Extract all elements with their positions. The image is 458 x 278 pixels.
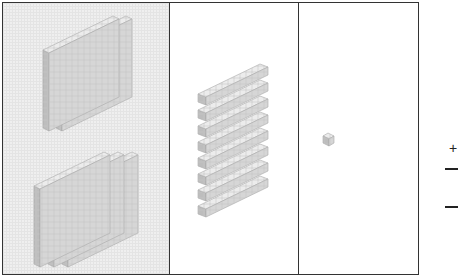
hundreds-flats-group-2 bbox=[34, 152, 138, 267]
ones-unit-cube bbox=[323, 133, 334, 146]
hundreds-flats-group-1 bbox=[43, 16, 132, 131]
plus-sign: + bbox=[449, 141, 457, 155]
answer-line-2 bbox=[445, 206, 458, 208]
blocks-layer bbox=[0, 0, 458, 278]
tens-rods-group bbox=[198, 64, 268, 217]
answer-line-1 bbox=[445, 168, 458, 170]
